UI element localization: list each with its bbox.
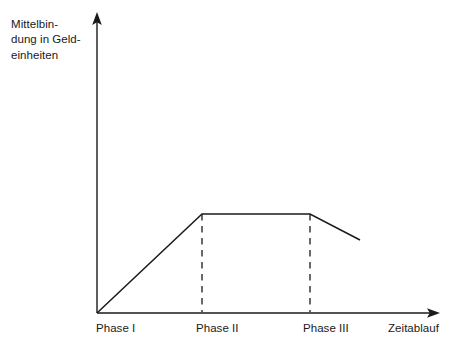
- x-axis: [97, 308, 440, 318]
- x-axis-arrowhead-icon: [427, 308, 440, 318]
- x-tick-label-phase-ii: Phase II: [196, 322, 239, 335]
- chart-figure: Mittelbin- dung in Geld- einheiten Phase…: [0, 0, 455, 349]
- x-tick-label-phase-i: Phase I: [96, 322, 135, 335]
- x-axis-label: Zeitablauf: [388, 322, 439, 335]
- x-tick-label-phase-iii: Phase III: [303, 322, 349, 335]
- y-axis-arrowhead-icon: [92, 12, 102, 25]
- y-axis: [92, 12, 102, 313]
- mittelbindung-curve: [97, 214, 360, 313]
- chart-plot-area: [0, 0, 455, 349]
